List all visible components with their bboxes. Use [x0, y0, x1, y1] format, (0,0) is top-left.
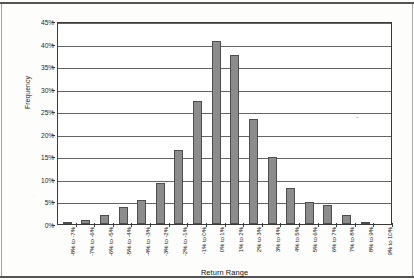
- x-axis-tick-label: 7% to 8%: [348, 227, 355, 252]
- y-axis-tick-mark: [52, 225, 55, 226]
- y-axis-tick-mark: [52, 45, 55, 46]
- bar: [305, 202, 314, 224]
- y-axis-tick-mark: [52, 157, 55, 158]
- y-axis-tick-label: 5%: [28, 199, 54, 206]
- x-axis-tick-label: 3% to 4%: [274, 227, 281, 252]
- y-axis-tick-labels: 0%5%10%15%20%25%30%35%40%45%: [26, 22, 54, 225]
- y-axis-tick-label: 45%: [28, 19, 54, 26]
- bar: [361, 222, 370, 224]
- x-axis-tick-label: -2% to -1%: [181, 227, 188, 256]
- y-axis-tick-label: 30%: [28, 86, 54, 93]
- bar: [342, 215, 351, 224]
- bar: [63, 222, 72, 224]
- bar: [323, 205, 332, 224]
- bar: [81, 220, 90, 225]
- x-axis-tick-label: 5% to 6%: [311, 227, 318, 252]
- y-axis-tick-label: 25%: [28, 109, 54, 116]
- x-axis-tick-label: 6% to 7%: [330, 227, 337, 252]
- x-axis-tick-label: 1% to 2%: [237, 227, 244, 252]
- bar: [119, 207, 128, 224]
- bar: [249, 119, 258, 224]
- x-axis-tick-label: 4% to 5%: [293, 227, 300, 252]
- y-axis-tick-label: 20%: [28, 131, 54, 138]
- x-axis-tick-label: 9% to 10%: [386, 227, 393, 256]
- y-axis-tick-mark: [52, 22, 55, 23]
- y-axis-tick-mark: [52, 135, 55, 136]
- y-axis-tick-mark: [52, 202, 55, 203]
- x-axis-title: Return Range: [57, 268, 392, 277]
- bar: [174, 150, 183, 224]
- y-axis-tick-label: 15%: [28, 154, 54, 161]
- y-axis-tick-label: 35%: [28, 64, 54, 71]
- plot-area: [57, 22, 392, 225]
- x-axis-tick-labels: -8% to -7%-7% to -6%-6% to -5%-5% to -4%…: [57, 227, 392, 269]
- y-axis-tick-mark: [52, 90, 55, 91]
- x-axis-tick-label: 8% to 9%: [367, 227, 374, 252]
- x-axis-tick-label: -1% to 0%: [200, 227, 207, 254]
- bar: [100, 215, 109, 224]
- y-axis-tick-label: 40%: [28, 41, 54, 48]
- bar: [230, 55, 239, 224]
- x-axis-tick-label: -4% to -3%: [144, 227, 151, 256]
- y-axis-tick-label: 0%: [28, 222, 54, 229]
- bar: [212, 41, 221, 224]
- bar: [156, 183, 165, 224]
- bar: [193, 101, 202, 224]
- bar: [286, 188, 295, 224]
- x-axis-tick-label: -3% to -2%: [162, 227, 169, 256]
- x-axis-tick-label: -8% to -7%: [69, 227, 76, 256]
- page-border-top: [0, 2, 414, 4]
- bar: [268, 157, 277, 224]
- x-axis-tick-label: -7% to -6%: [88, 227, 95, 256]
- x-axis-tick-label: -5% to -4%: [125, 227, 132, 256]
- y-axis-tick-mark: [52, 180, 55, 181]
- y-axis-tick-mark: [52, 67, 55, 68]
- bar-series: [58, 23, 391, 224]
- histogram-chart: Frequency 0%5%10%15%20%25%30%35%40%45% -…: [0, 6, 414, 274]
- y-axis-tick-mark: [52, 112, 55, 113]
- scan-speck: [356, 117, 359, 118]
- bar: [137, 200, 146, 224]
- y-axis-tick-label: 10%: [28, 176, 54, 183]
- chart-page: Frequency 0%5%10%15%20%25%30%35%40%45% -…: [0, 0, 414, 280]
- x-axis-tick-label: 0% to 1%: [218, 227, 225, 252]
- x-axis-tick-label: -6% to -5%: [107, 227, 114, 256]
- x-axis-tick-label: 2% to 3%: [255, 227, 262, 252]
